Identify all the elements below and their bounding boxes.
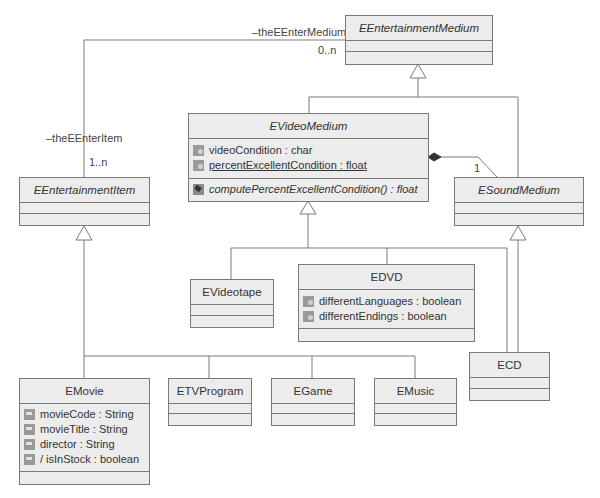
attributes-compartment: [20, 203, 149, 214]
operations-compartment: [299, 329, 474, 341]
attribute-icon: [193, 145, 204, 156]
attribute-text: director : String: [40, 437, 115, 452]
attributes-compartment: [455, 203, 583, 214]
generalization-arrow-sound: [510, 226, 526, 240]
class-name: EMovie: [20, 379, 149, 404]
class-esoundmedium[interactable]: ESoundMedium: [454, 177, 584, 226]
class-name: EEntertainmentMedium: [346, 16, 492, 41]
multiplicity-item: 1..n: [89, 156, 107, 168]
class-name: ETVProgram: [169, 379, 251, 404]
attributes-compartment: [191, 305, 273, 316]
multiplicity-composition: 1: [474, 162, 480, 174]
operations-compartment: [191, 316, 273, 327]
class-name: ESoundMedium: [455, 178, 583, 203]
attribute-row: percentExcellentCondition : float: [193, 158, 424, 173]
attributes-compartment: [470, 378, 549, 389]
attribute-row: director : String: [24, 437, 145, 452]
role-label-medium: –theEEnterMedium: [252, 26, 346, 38]
operation-icon: [193, 184, 204, 195]
attribute-row: differentEndings : boolean: [303, 309, 470, 324]
class-eentertainmentmedium[interactable]: EEntertainmentMedium: [345, 15, 493, 65]
attributes-compartment: [346, 41, 492, 52]
attribute-text: differentLanguages : boolean: [319, 294, 461, 309]
operations-compartment: [375, 414, 456, 425]
attributes-compartment: [375, 404, 456, 414]
operations-compartment: [470, 389, 549, 400]
class-etvprogram[interactable]: ETVProgram: [168, 378, 252, 426]
operations-compartment: [455, 214, 583, 225]
class-ecd[interactable]: ECD: [469, 352, 550, 401]
attributes-compartment: differentLanguages : boolean differentEn…: [299, 290, 474, 329]
class-evideotape[interactable]: EVideotape: [190, 279, 274, 328]
class-evideomedium[interactable]: EVideoMedium videoCondition : char perce…: [188, 113, 429, 202]
attribute-icon: [24, 454, 35, 465]
attribute-icon: [24, 424, 35, 435]
multiplicity-medium: 0..n: [318, 44, 336, 56]
attribute-text: movieTitle : String: [40, 422, 128, 437]
generalization-arrow-video: [300, 201, 316, 214]
class-name: EDVD: [299, 265, 474, 290]
attributes-compartment: videoCondition : char percentExcellentCo…: [189, 139, 428, 179]
operations-compartment: computePercentExcellentCondition() : flo…: [189, 179, 428, 201]
attribute-row: differentLanguages : boolean: [303, 294, 470, 309]
role-label-item: –theEEnterItem: [46, 132, 122, 144]
class-name: EGame: [272, 379, 354, 404]
operation-row: computePercentExcellentCondition() : flo…: [193, 182, 424, 197]
attribute-text: percentExcellentCondition : float: [209, 158, 367, 173]
attribute-icon: [24, 409, 35, 420]
attribute-icon: [24, 439, 35, 450]
attribute-row: videoCondition : char: [193, 143, 424, 158]
attributes-compartment: [169, 404, 251, 414]
operation-text: computePercentExcellentCondition() : flo…: [209, 182, 418, 197]
attribute-text: movieCode : String: [40, 407, 134, 422]
class-name: EVideotape: [191, 280, 273, 305]
operations-compartment: [272, 414, 354, 425]
class-name: EVideoMedium: [189, 114, 428, 139]
attribute-icon: [193, 160, 204, 171]
attribute-icon: [303, 296, 314, 307]
generalization-arrow-item: [76, 226, 92, 240]
operations-compartment: [169, 414, 251, 425]
attribute-text: videoCondition : char: [209, 143, 312, 158]
attribute-text: differentEndings : boolean: [319, 309, 447, 324]
attribute-row: / isInStock : boolean: [24, 452, 145, 467]
class-name: EEntertainmentItem: [20, 178, 149, 203]
class-emusic[interactable]: EMusic: [374, 378, 457, 426]
class-egame[interactable]: EGame: [271, 378, 355, 426]
operations-compartment: [20, 472, 149, 484]
operations-compartment: [346, 52, 492, 64]
class-name: ECD: [470, 353, 549, 378]
class-edvd[interactable]: EDVD differentLanguages : boolean differ…: [298, 264, 475, 342]
class-emovie[interactable]: EMovie movieCode : String movieTitle : S…: [19, 378, 150, 485]
attribute-row: movieCode : String: [24, 407, 145, 422]
class-name: EMusic: [375, 379, 456, 404]
attribute-text: / isInStock : boolean: [40, 452, 139, 467]
attribute-icon: [303, 311, 314, 322]
generalization-arrow-medium: [410, 64, 426, 78]
class-eentertainmentitem[interactable]: EEntertainmentItem: [19, 177, 150, 226]
attribute-row: movieTitle : String: [24, 422, 145, 437]
composition-diamond: [428, 153, 441, 161]
attributes-compartment: movieCode : String movieTitle : String d…: [20, 404, 149, 472]
operations-compartment: [20, 214, 149, 225]
attributes-compartment: [272, 404, 354, 414]
